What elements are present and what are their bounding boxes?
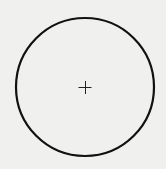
- diagram-svg: [0, 0, 166, 169]
- diagram-canvas: [0, 0, 166, 169]
- center-cross-icon: [79, 81, 92, 94]
